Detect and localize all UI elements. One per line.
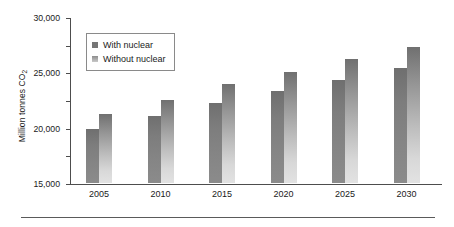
bar-group: 2030: [394, 17, 420, 183]
legend-swatch-icon-without-nuclear: [92, 56, 98, 62]
bottom-divider: [21, 217, 435, 218]
legend-item-with-nuclear: With nuclear: [92, 38, 166, 52]
bar-2020-with-nuclear[interactable]: [271, 91, 284, 183]
x-axis-category-label: 2020: [254, 189, 314, 199]
x-axis-line: [70, 184, 442, 185]
x-axis-category-label: 2010: [131, 189, 191, 199]
y-axis-tick: 5000: [66, 156, 70, 157]
legend-label-with-nuclear: With nuclear: [103, 40, 153, 50]
x-axis-category-label: 2030: [377, 189, 437, 199]
legend-label-without-nuclear: Without nuclear: [103, 54, 166, 64]
y-axis-tick-label: 15,000: [33, 179, 60, 189]
bar-2010-with-nuclear[interactable]: [148, 116, 161, 183]
bar-2025-without-nuclear[interactable]: [345, 59, 358, 183]
y-axis-title-subscript: 2: [21, 70, 28, 74]
y-axis-tick: 30,000: [66, 18, 70, 19]
y-axis-tick: 20,000: [66, 73, 70, 74]
y-axis-tick-label: 30,000: [33, 13, 60, 23]
legend-swatch-icon-with-nuclear: [92, 42, 98, 48]
y-axis-tick-label: 25,000: [33, 68, 60, 78]
y-axis-title-text: Million tonnes CO: [17, 73, 27, 142]
y-axis-title: Million tonnes CO2: [17, 26, 27, 186]
y-axis-tick: 15,000: [66, 101, 70, 102]
chart-figure: Million tonnes CO2 30,00025,00020,00015,…: [0, 0, 454, 227]
y-axis-tick: 10,000: [66, 129, 70, 130]
x-axis-category-label: 2005: [69, 189, 129, 199]
bar-2025-with-nuclear[interactable]: [332, 80, 345, 183]
bar-group: 2020: [271, 17, 297, 183]
bar-2030-with-nuclear[interactable]: [394, 68, 407, 183]
y-axis-line: [70, 18, 71, 185]
y-axis-tick: 25,000: [66, 46, 70, 47]
bar-2005-with-nuclear[interactable]: [86, 129, 99, 183]
bar-group: 2015: [209, 17, 235, 183]
legend-item-without-nuclear: Without nuclear: [92, 52, 166, 66]
chart-legend: With nuclear Without nuclear: [86, 33, 175, 71]
y-axis-tick-label: 20,000: [33, 124, 60, 134]
bar-2005-without-nuclear[interactable]: [99, 114, 112, 183]
bar-2015-with-nuclear[interactable]: [209, 103, 222, 183]
x-axis-category-label: 2015: [192, 189, 252, 199]
x-axis-category-label: 2025: [315, 189, 375, 199]
bar-group: 2025: [332, 17, 358, 183]
bar-2010-without-nuclear[interactable]: [161, 100, 174, 183]
y-axis-tick: 0: [66, 184, 70, 185]
bar-2020-without-nuclear[interactable]: [284, 72, 297, 183]
bar-2015-without-nuclear[interactable]: [222, 84, 235, 183]
bar-2030-without-nuclear[interactable]: [407, 47, 420, 183]
